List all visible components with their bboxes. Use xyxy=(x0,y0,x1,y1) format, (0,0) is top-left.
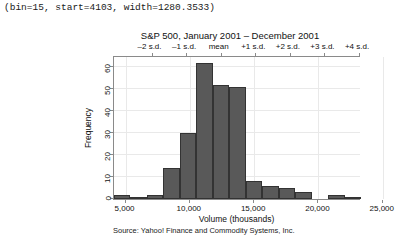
x-axis-tick-label: 25,000 xyxy=(370,204,394,213)
sd-axis-tick xyxy=(290,53,291,57)
histogram-bars xyxy=(114,57,360,199)
x-axis-tick-label: 20,000 xyxy=(305,204,329,213)
sd-axis-label: +1 s.d. xyxy=(241,42,265,51)
x-axis-tick-label: 15,000 xyxy=(241,204,265,213)
sd-axis-tick xyxy=(359,53,360,57)
x-axis-tick xyxy=(317,200,318,203)
sd-axis-tick xyxy=(255,53,256,57)
x-axis-tick-label: 10,000 xyxy=(177,204,201,213)
sd-axis-label: –1 s.d. xyxy=(172,42,196,51)
histogram-bar xyxy=(163,168,179,199)
sd-axis-label: mean xyxy=(209,42,229,51)
y-axis-tick-label: 30 xyxy=(104,130,113,139)
histogram-bar xyxy=(196,63,212,199)
y-axis-tick-label: 20 xyxy=(104,152,113,161)
y-axis-tick-label: 0 xyxy=(104,196,113,200)
sd-axis-tick xyxy=(152,53,153,57)
sd-axis-label: +3 s.d. xyxy=(310,42,334,51)
y-axis: 0102030405060 xyxy=(95,56,113,199)
x-axis-title: Volume (thousands) xyxy=(113,214,360,224)
histogram-bar xyxy=(279,188,295,199)
y-axis-tick-label: 40 xyxy=(104,108,113,117)
bin-parameters-text: (bin=15, start=4103, width=1280.3533) xyxy=(4,2,215,13)
sd-axis-tick xyxy=(186,53,187,57)
histogram-bar xyxy=(246,181,262,199)
x-axis-tick xyxy=(189,200,190,203)
x-axis-tick-label: 5,000 xyxy=(115,204,135,213)
x-axis-tick xyxy=(125,200,126,203)
x-axis-tick xyxy=(253,200,254,203)
y-axis-title: Frequency xyxy=(82,56,94,199)
histogram-bar xyxy=(213,85,229,199)
y-axis-title-label: Frequency xyxy=(83,107,93,147)
x-axis-tick xyxy=(382,200,383,203)
y-axis-tick-label: 50 xyxy=(104,86,113,95)
histogram-bar xyxy=(229,87,245,199)
sd-axis-tick xyxy=(324,53,325,57)
sd-axis-label: –2 s.d. xyxy=(138,42,162,51)
sd-axis-label: +2 s.d. xyxy=(276,42,300,51)
source-note: Source: Yahoo! Finance and Commodity Sys… xyxy=(113,226,294,235)
sd-axis-label: +4 s.d. xyxy=(345,42,369,51)
sd-axis-tick xyxy=(221,53,222,57)
histogram-figure: S&P 500, January 2001 – December 2001 –2… xyxy=(0,24,401,244)
y-axis-tick-label: 60 xyxy=(104,64,113,73)
sd-axis-label-row: –2 s.d.–1 s.d.mean+1 s.d.+2 s.d.+3 s.d.+… xyxy=(112,42,360,54)
chart-title: S&P 500, January 2001 – December 2001 xyxy=(100,30,360,41)
histogram-bar xyxy=(295,192,311,199)
plot-area xyxy=(113,56,360,199)
histogram-bar xyxy=(180,133,196,199)
gridline-vertical xyxy=(383,57,384,199)
histogram-bar xyxy=(262,186,278,199)
y-axis-tick-label: 10 xyxy=(104,174,113,183)
